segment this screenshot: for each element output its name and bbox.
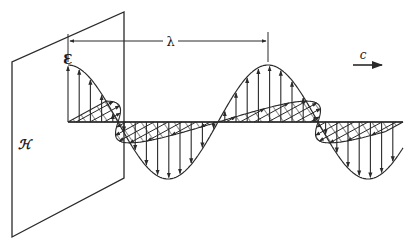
velocity-label: c	[360, 48, 367, 62]
magnetic-field-label: ℋ	[18, 137, 33, 152]
wavelength-label: λ	[166, 34, 174, 49]
electric-field-label: Ɛ	[63, 52, 72, 67]
velocity-indicator: c	[353, 48, 382, 65]
em-wave-diagram: λ c Ɛ ℋ	[0, 0, 415, 244]
wavelength-marker: λ	[68, 32, 268, 62]
